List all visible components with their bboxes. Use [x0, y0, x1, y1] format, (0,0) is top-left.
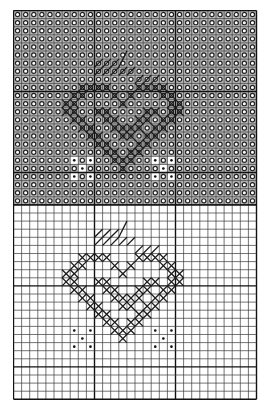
backstitch-line — [135, 245, 143, 253]
o-symbol-icon — [186, 174, 190, 178]
o-symbol-icon — [169, 150, 173, 154]
o-symbol-icon — [24, 29, 28, 33]
o-symbol-icon — [226, 118, 230, 122]
o-symbol-icon — [218, 126, 222, 130]
o-symbol-icon — [218, 85, 222, 89]
o-symbol-icon — [72, 77, 76, 81]
o-symbol-icon — [15, 191, 19, 195]
o-symbol-icon — [250, 37, 254, 41]
o-symbol-icon — [113, 21, 117, 25]
o-symbol-icon — [40, 102, 44, 106]
o-symbol-icon — [177, 183, 181, 187]
o-symbol-icon — [169, 126, 173, 130]
o-symbol-icon — [186, 199, 190, 203]
o-symbol-icon — [186, 77, 190, 81]
o-symbol-icon — [32, 199, 36, 203]
backstitch-line — [111, 237, 119, 245]
o-symbol-icon — [234, 118, 238, 122]
o-symbol-icon — [48, 102, 52, 106]
o-symbol-icon — [153, 93, 157, 97]
o-symbol-icon — [234, 134, 238, 138]
o-symbol-icon — [186, 118, 190, 122]
o-symbol-icon — [88, 110, 92, 114]
o-symbol-icon — [242, 45, 246, 49]
o-symbol-icon — [218, 45, 222, 49]
o-symbol-icon — [202, 29, 206, 33]
o-symbol-icon — [121, 174, 125, 178]
o-symbol-icon — [250, 158, 254, 162]
o-symbol-icon — [80, 183, 84, 187]
o-symbol-icon — [137, 183, 141, 187]
o-symbol-icon — [129, 174, 133, 178]
o-symbol-icon — [161, 150, 165, 154]
o-symbol-icon — [56, 45, 60, 49]
o-symbol-icon — [56, 77, 60, 81]
o-symbol-icon — [24, 37, 28, 41]
o-symbol-icon — [40, 77, 44, 81]
o-symbol-icon — [72, 183, 76, 187]
o-symbol-icon — [15, 12, 19, 16]
dot-symbol-icon — [154, 175, 157, 178]
o-symbol-icon — [234, 166, 238, 170]
o-symbol-icon — [105, 191, 109, 195]
o-symbol-icon — [129, 45, 133, 49]
o-symbol-icon — [210, 142, 214, 146]
dot-symbol-icon — [89, 329, 92, 332]
o-symbol-icon — [96, 77, 100, 81]
o-symbol-icon — [226, 126, 230, 130]
o-symbol-icon — [15, 29, 19, 33]
o-symbol-icon — [202, 53, 206, 57]
o-symbol-icon — [48, 166, 52, 170]
o-symbol-icon — [234, 199, 238, 203]
o-symbol-icon — [121, 77, 125, 81]
o-symbol-icon — [145, 69, 149, 73]
o-symbol-icon — [137, 69, 141, 73]
o-symbol-icon — [145, 102, 149, 106]
o-symbol-icon — [40, 191, 44, 195]
o-symbol-icon — [186, 85, 190, 89]
o-symbol-icon — [32, 93, 36, 97]
o-symbol-icon — [226, 53, 230, 57]
dot-symbol-icon — [73, 329, 76, 332]
o-symbol-icon — [129, 77, 133, 81]
o-symbol-icon — [40, 61, 44, 65]
o-symbol-icon — [186, 12, 190, 16]
o-symbol-icon — [186, 110, 190, 114]
o-symbol-icon — [24, 21, 28, 25]
o-symbol-icon — [121, 142, 125, 146]
o-symbol-icon — [64, 53, 68, 57]
o-symbol-icon — [80, 174, 84, 178]
o-symbol-icon — [194, 53, 198, 57]
o-symbol-icon — [56, 29, 60, 33]
o-symbol-icon — [32, 142, 36, 146]
o-symbol-icon — [15, 183, 19, 187]
dot-symbol-icon — [89, 175, 92, 178]
o-symbol-icon — [80, 69, 84, 73]
o-symbol-icon — [32, 37, 36, 41]
o-symbol-icon — [24, 93, 28, 97]
o-symbol-icon — [64, 21, 68, 25]
o-symbol-icon — [121, 21, 125, 25]
o-symbol-icon — [121, 93, 125, 97]
o-symbol-icon — [121, 150, 125, 154]
o-symbol-icon — [202, 118, 206, 122]
o-symbol-icon — [88, 12, 92, 16]
o-symbol-icon — [145, 37, 149, 41]
o-symbol-icon — [226, 199, 230, 203]
o-symbol-icon — [56, 93, 60, 97]
o-symbol-icon — [129, 183, 133, 187]
o-symbol-icon — [24, 142, 28, 146]
o-symbol-icon — [250, 150, 254, 154]
o-symbol-icon — [169, 69, 173, 73]
o-symbol-icon — [242, 61, 246, 65]
o-symbol-icon — [48, 150, 52, 154]
o-symbol-icon — [169, 53, 173, 57]
o-symbol-icon — [242, 158, 246, 162]
o-symbol-icon — [40, 158, 44, 162]
o-symbol-icon — [80, 21, 84, 25]
o-symbol-icon — [48, 61, 52, 65]
o-symbol-icon — [218, 150, 222, 154]
o-symbol-icon — [105, 134, 109, 138]
o-symbol-icon — [186, 69, 190, 73]
o-symbol-icon — [48, 29, 52, 33]
